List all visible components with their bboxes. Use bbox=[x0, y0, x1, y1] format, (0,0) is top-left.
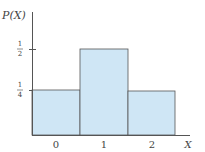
probability-histogram: P(X) 1 2 1 4 0 1 2 X bbox=[0, 0, 205, 152]
ytick-quarter-denominator: 4 bbox=[18, 91, 23, 99]
y-axis-label: P(X) bbox=[1, 9, 26, 22]
xtick-label-2: 2 bbox=[149, 139, 155, 150]
bar-x2 bbox=[128, 91, 175, 135]
bar-x1 bbox=[80, 49, 128, 135]
xtick-label-0: 0 bbox=[53, 139, 59, 150]
x-axis-label: X bbox=[183, 139, 192, 150]
xtick-label-1: 1 bbox=[101, 139, 107, 150]
ytick-half-denominator: 2 bbox=[18, 50, 22, 58]
bar-x0 bbox=[32, 90, 80, 135]
ytick-quarter-numerator: 1 bbox=[18, 81, 22, 89]
ytick-half-numerator: 1 bbox=[18, 40, 22, 48]
